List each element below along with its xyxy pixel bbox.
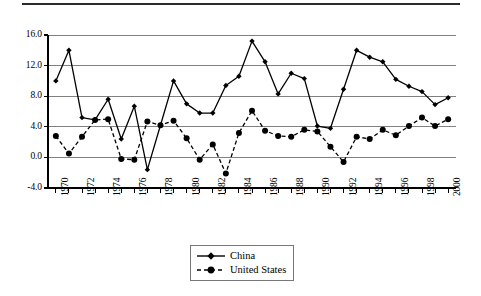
x-tick-label: 1986 [269, 178, 279, 196]
x-tick-label: 1990 [321, 178, 331, 196]
legend-label-united-states: United States [230, 264, 286, 276]
legend-marker-china [196, 250, 226, 262]
legend-item-china: China [196, 249, 286, 263]
chart-page: -4.00.04.08.012.016.0 197019721974197619… [0, 0, 481, 296]
x-tick-label: 1998 [426, 178, 436, 196]
y-tick-label: 4.0 [12, 121, 42, 131]
x-tick-label: 2000 [452, 178, 462, 196]
x-tick-label: 1972 [86, 178, 96, 196]
y-tick-label: 8.0 [12, 90, 42, 100]
y-tick-label: 16.0 [12, 29, 42, 39]
x-tick-label: 1996 [400, 178, 410, 196]
x-tick-label: 1982 [217, 178, 227, 196]
y-tick-label: 0.0 [12, 151, 42, 161]
y-tick-label: 12.0 [12, 60, 42, 70]
legend-label-china: China [230, 250, 255, 262]
y-tick-label: -4.0 [12, 182, 42, 192]
x-tick-label: 1988 [295, 178, 305, 196]
chart-legend: China United States [190, 245, 294, 281]
x-tick-label: 1980 [191, 178, 201, 196]
legend-marker-united-states [196, 264, 226, 276]
x-tick-label: 1970 [60, 178, 70, 196]
x-tick-label: 1984 [243, 178, 253, 196]
legend-item-united-states: United States [196, 263, 286, 277]
x-tick-label: 1978 [164, 178, 174, 196]
x-tick-label: 1974 [112, 178, 122, 196]
x-tick-label: 1994 [374, 178, 384, 196]
top-horizontal-rule [22, 3, 460, 5]
x-tick-label: 1992 [348, 178, 358, 196]
x-tick-label: 1976 [138, 178, 148, 196]
